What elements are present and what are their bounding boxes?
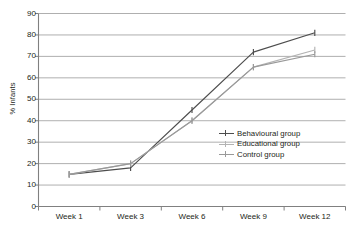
legend-marker-icon: [219, 149, 234, 159]
x-axis-tick-label: Week 12: [285, 212, 345, 221]
legend-item: Behavioural group: [219, 128, 347, 139]
legend-marker-icon: [219, 128, 234, 138]
legend-item: Control group: [219, 149, 347, 160]
legend-item-label: Control group: [237, 150, 284, 159]
legend-marker-icon: [219, 139, 234, 149]
legend: Behavioural groupEducational groupContro…: [219, 128, 347, 160]
x-axis-tick-label: Week 1: [39, 212, 99, 221]
x-axis-tick-labels: Week 1Week 3Week 6Week 9Week 12: [0, 0, 355, 237]
legend-item-label: Behavioural group: [237, 129, 300, 138]
x-axis-tick-label: Week 3: [101, 212, 161, 221]
x-axis-tick-label: Week 9: [223, 212, 283, 221]
legend-item: Educational group: [219, 139, 347, 150]
x-axis-tick-label: Week 6: [162, 212, 222, 221]
line-chart: % Infants 9080706050403020100 Week 1Week…: [0, 0, 355, 237]
legend-item-label: Educational group: [237, 139, 300, 148]
